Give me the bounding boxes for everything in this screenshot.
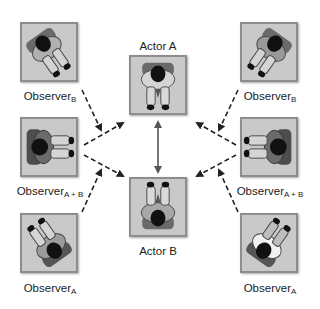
actor-b-label: Actor B (113, 245, 203, 257)
person-topdown-icon (242, 24, 296, 80)
observer-right-ab-label: ObserverA + B (225, 185, 315, 199)
observer-right-b-figure (240, 22, 298, 82)
actor-a-label: Actor A (113, 40, 203, 52)
person-topdown-icon (22, 119, 76, 175)
observer-left-ab-figure (20, 117, 78, 177)
observer-left-a-figure (20, 213, 78, 273)
person-topdown-icon (242, 215, 296, 271)
observer-right-b-label: ObserverB (225, 90, 315, 104)
person-topdown-icon (22, 24, 76, 80)
actor-b-figure (129, 177, 187, 237)
person-topdown-icon (131, 57, 185, 113)
observer-left-ab-label: ObserverA + B (5, 185, 95, 199)
observer-left-a-label: ObserverA (5, 282, 95, 296)
person-topdown-icon (131, 179, 185, 235)
actor-a-figure (129, 55, 187, 115)
person-topdown-icon (22, 215, 76, 271)
observer-right-a-label: ObserverA (225, 282, 315, 296)
observer-left-b-figure (20, 22, 78, 82)
observer-right-ab-figure (240, 117, 298, 177)
person-topdown-icon (242, 119, 296, 175)
observer-left-b-label: ObserverB (5, 90, 95, 104)
observer-right-a-figure (240, 213, 298, 273)
